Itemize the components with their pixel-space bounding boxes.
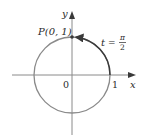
t-equals-label: =: [108, 38, 116, 48]
y-axis-arrow-icon: [69, 11, 75, 19]
origin-label: 0: [63, 79, 69, 90]
t-denominator-label: 2: [120, 43, 125, 52]
x-axis-arrow-icon: [128, 72, 136, 78]
x-axis-label: x: [130, 79, 136, 90]
y-axis-label: y: [61, 8, 68, 19]
t-numerator-label: π: [119, 33, 126, 42]
one-label: 1: [112, 79, 118, 90]
unit-circle-diagram: y x 0 1 P(0, 1) t = π 2: [0, 0, 146, 139]
t-variable-label: t: [101, 37, 106, 48]
point-p-label: P(0, 1): [37, 26, 72, 37]
